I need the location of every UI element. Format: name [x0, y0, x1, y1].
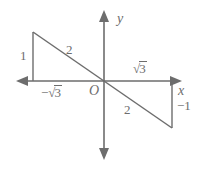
leg-length-negative-one-label: −1 — [177, 99, 191, 112]
radicand: 3 — [54, 85, 62, 99]
minus-sign: − — [41, 85, 48, 100]
origin-label: O — [89, 84, 99, 98]
hypotenuse-lower-label: 2 — [124, 103, 131, 116]
radical-group: √3 — [48, 85, 62, 99]
plotted-line — [33, 32, 172, 128]
hypotenuse-upper-label: 2 — [66, 43, 73, 56]
y-axis-down-arrow-icon — [99, 148, 109, 160]
figure-canvas — [0, 0, 200, 170]
x-axis-label: x — [178, 84, 184, 98]
coordinate-figure: y x O 1 −1 2 2 √3 −√3 — [0, 0, 200, 170]
x-axis-left-arrow-icon — [16, 76, 28, 86]
y-axis-up-arrow-icon — [99, 10, 109, 22]
x-tick-negative-sqrt3-label: −√3 — [41, 85, 62, 99]
x-tick-positive-sqrt3-label: √3 — [133, 61, 147, 75]
leg-length-one-label: 1 — [20, 49, 27, 62]
radical-group: √3 — [133, 61, 147, 75]
radicand: 3 — [139, 61, 147, 75]
y-axis-label: y — [117, 12, 123, 26]
